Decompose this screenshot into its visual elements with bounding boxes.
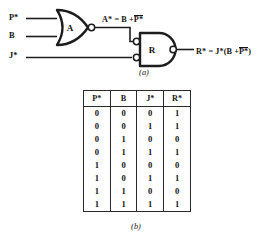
equation-r-equals: = [208,47,213,56]
figure-root: A R P* B J* A* = B +P* R* [0,0,275,239]
cell-j: 1 [137,172,164,185]
col-header-p: P* [84,91,111,107]
cell-p: 0 [84,146,111,159]
cell-b: 1 [110,185,137,198]
cell-j: 0 [137,159,164,172]
equation-a-rhs-first: B + [121,15,133,24]
col-header-r: R* [164,91,191,107]
cell-r: 1 [164,120,191,133]
cell-p: 1 [84,159,111,172]
b-input-label: B [9,31,15,40]
wire-a-to-r [95,28,140,42]
cell-r: 1 [164,172,191,185]
cell-p: 1 [84,185,111,198]
truth-table: P* B J* R* 0 0 0 1 0 0 1 1 [83,90,191,212]
table-row: 0 1 0 0 [84,133,191,146]
j-input-label: J* [9,51,17,60]
cell-j: 1 [137,120,164,133]
equation-a-rhs-overbar: P* [134,15,143,25]
cell-p: 0 [84,107,111,121]
gate-r-output-bubble [170,46,176,52]
cell-b: 0 [110,107,137,121]
equation-r-rhs-open: J*(B + [215,47,239,56]
col-header-j: J* [137,91,164,107]
p-input-label: P* [9,13,18,22]
cell-b: 1 [110,133,137,146]
cell-p: 1 [84,198,111,212]
gate-a-label: A [67,23,74,33]
truth-table-wrapper: P* B J* R* 0 0 0 1 0 0 1 1 [83,90,191,212]
cell-j: 0 [137,133,164,146]
truth-table-body: 0 0 0 1 0 0 1 1 0 1 0 0 0 [84,107,191,212]
equation-a-equals: = [114,15,119,24]
cell-j: 0 [137,107,164,121]
cell-b: 0 [110,172,137,185]
cell-r: 0 [164,133,191,146]
col-header-b: B [110,91,137,107]
table-row: 1 0 1 1 [84,172,191,185]
equation-r-rhs-overbar: P* [239,47,248,57]
part-b-caption: (b) [116,222,156,231]
cell-j: 0 [137,185,164,198]
cell-j: 1 [137,146,164,159]
equation-r-rhs-close: ) [248,47,251,56]
table-row: 0 0 1 1 [84,120,191,133]
cell-b: 1 [110,146,137,159]
cell-r: 0 [164,159,191,172]
table-row: 0 0 0 1 [84,107,191,121]
part-a-caption: (a) [124,68,164,77]
table-row: 1 1 1 1 [84,198,191,212]
cell-p: 1 [84,172,111,185]
cell-b: 1 [110,198,137,212]
cell-b: 0 [110,159,137,172]
equation-a-output: A* = B +P* [102,15,143,25]
table-header-row: P* B J* R* [84,91,191,107]
table-row: 1 0 0 0 [84,159,191,172]
cell-j: 1 [137,198,164,212]
table-row: 1 1 0 0 [84,185,191,198]
equation-r-output: R* = J*(B +P*) [196,47,251,57]
equation-r-lhs: R* [196,47,206,56]
cell-r: 1 [164,198,191,212]
cell-r: 1 [164,146,191,159]
cell-r: 1 [164,107,191,121]
gate-r-label: R [149,45,156,55]
equation-a-lhs: A* [102,15,112,24]
cell-p: 0 [84,133,111,146]
table-row: 0 1 1 1 [84,146,191,159]
cell-p: 0 [84,120,111,133]
cell-b: 0 [110,120,137,133]
cell-r: 0 [164,185,191,198]
gate-a-output-bubble [88,24,94,30]
